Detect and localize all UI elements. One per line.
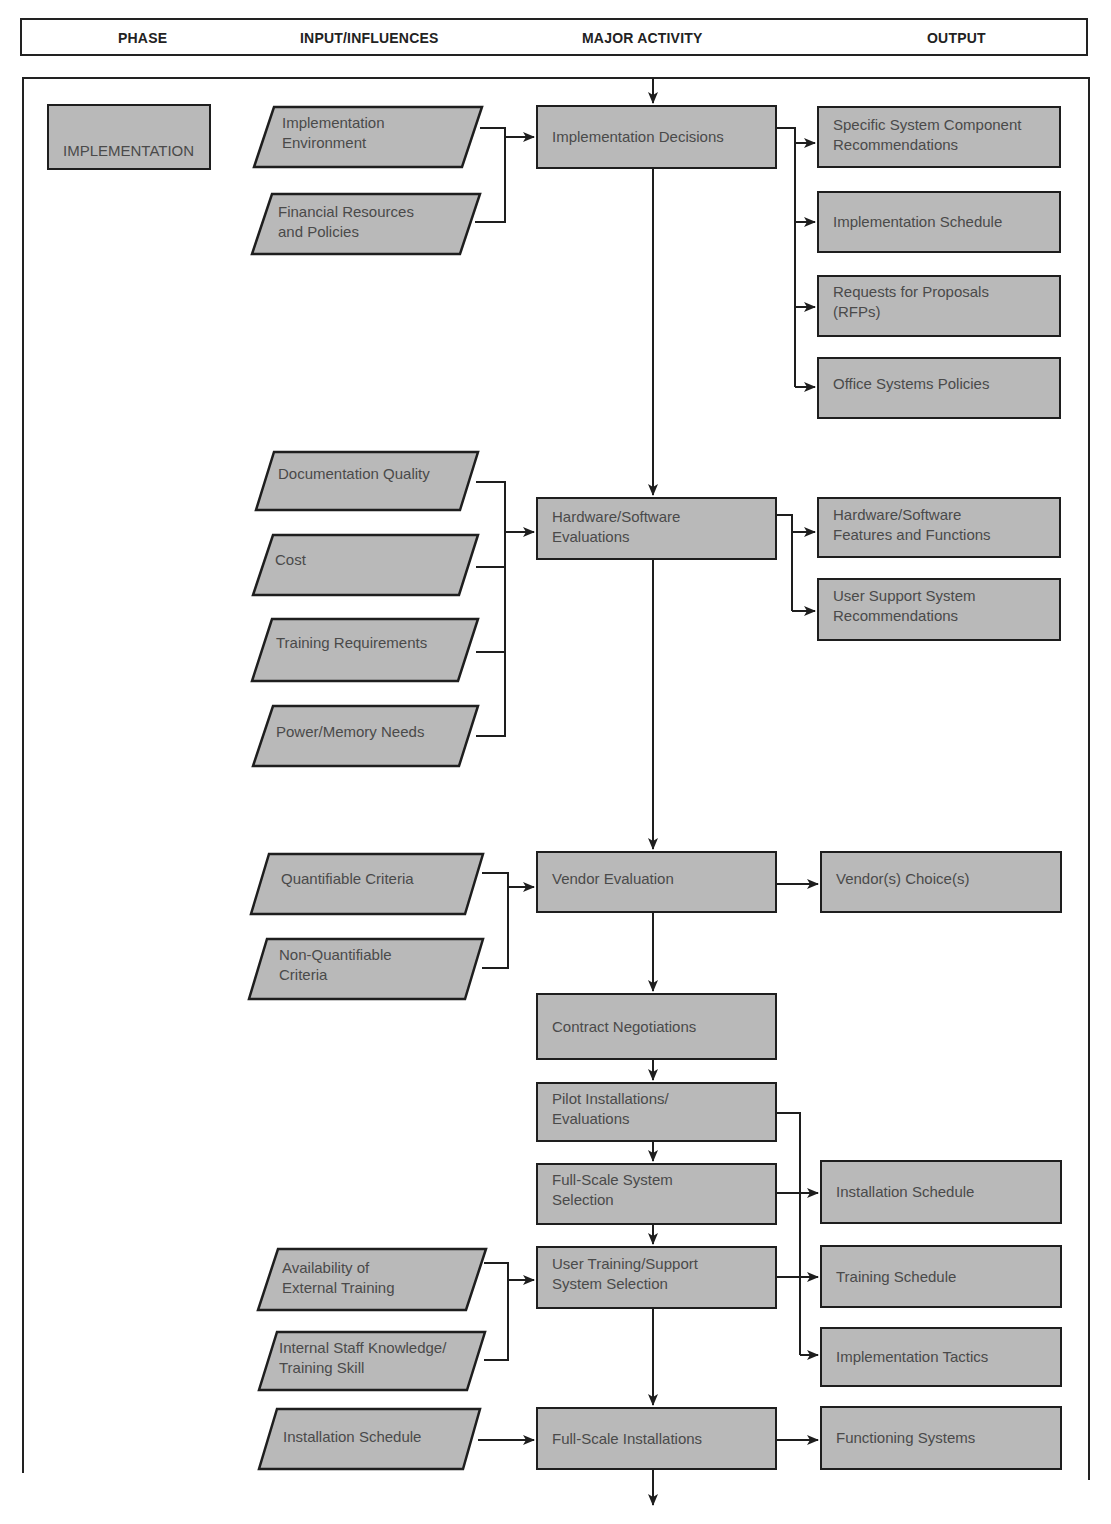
output-requests-for-proposals: Requests for Proposals (RFPs)	[817, 275, 1061, 337]
header-input-influences: INPUT/INFLUENCES	[300, 30, 439, 46]
output-hardware-software-features-and-functions: Hardware/Software Features and Functions	[817, 497, 1061, 558]
input-training-requirements: Training Requirements	[250, 617, 480, 683]
phase-implementation-box: IMPLEMENTATION	[47, 104, 211, 170]
activity-full-scale-installations: Full-Scale Installations	[536, 1407, 777, 1470]
activity-hardware-software-evaluations: Hardware/Software Evaluations	[536, 497, 777, 560]
activity-full-scale-system-selection: Full-Scale System Selection	[536, 1163, 777, 1225]
frame-left-border	[22, 77, 24, 1473]
output-office-systems-policies: Office Systems Policies	[817, 357, 1061, 419]
activity-contract-negotiations: Contract Negotiations	[536, 993, 777, 1060]
phase-label: IMPLEMENTATION	[63, 142, 194, 159]
input-implementation-environment: Implementation Environment	[252, 105, 484, 169]
output-vendors-choices: Vendor(s) Choice(s)	[820, 851, 1062, 913]
activity-implementation-decisions: Implementation Decisions	[536, 105, 777, 169]
input-quantifiable-criteria: Quantifiable Criteria	[249, 852, 485, 916]
input-internal-staff-knowledge-training-skill: Internal Staff Knowledge/ Training Skill	[257, 1330, 487, 1392]
activity-pilot-installations-evaluations: Pilot Installations/ Evaluations	[536, 1082, 777, 1142]
output-implementation-tactics: Implementation Tactics	[820, 1327, 1062, 1387]
output-specific-system-component-recommendations: Specific System Component Recommendation…	[817, 106, 1061, 168]
column-header-bar: PHASE INPUT/INFLUENCES MAJOR ACTIVITY OU…	[20, 18, 1088, 56]
frame-top-border	[22, 77, 1090, 79]
output-training-schedule: Training Schedule	[820, 1245, 1062, 1308]
input-financial-resources-and-policies: Financial Resources and Policies	[250, 192, 482, 256]
output-installation-schedule: Installation Schedule	[820, 1160, 1062, 1224]
activity-vendor-evaluation: Vendor Evaluation	[536, 851, 777, 913]
input-availability-of-external-training: Availability of External Training	[256, 1247, 488, 1312]
header-phase: PHASE	[118, 30, 167, 46]
input-non-quantifiable-criteria: Non-Quantifiable Criteria	[247, 937, 485, 1001]
header-output: OUTPUT	[927, 30, 986, 46]
input-documentation-quality: Documentation Quality	[254, 450, 480, 512]
header-major-activity: MAJOR ACTIVITY	[582, 30, 703, 46]
output-implementation-schedule: Implementation Schedule	[817, 191, 1061, 253]
input-installation-schedule: Installation Schedule	[257, 1407, 482, 1471]
input-cost: Cost	[251, 533, 480, 597]
activity-user-training-support-system-selection: User Training/Support System Selection	[536, 1246, 777, 1309]
output-user-support-system-recommendations: User Support System Recommendations	[817, 578, 1061, 641]
frame-right-border	[1088, 77, 1090, 1480]
output-functioning-systems: Functioning Systems	[820, 1406, 1062, 1470]
input-power-memory-needs: Power/Memory Needs	[251, 704, 480, 768]
